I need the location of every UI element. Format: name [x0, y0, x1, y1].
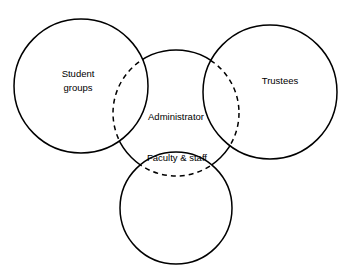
venn-diagram-canvas: Student groups Trustees Faculty & staff … — [0, 0, 352, 278]
label-student-groups-line2: groups — [63, 82, 92, 93]
label-student-groups-line1: Student — [62, 68, 95, 79]
label-trustees: Trustees — [262, 75, 299, 86]
label-administrator: Administrator — [148, 111, 204, 122]
circle-faculty-staff — [120, 152, 232, 264]
circle-trustees — [203, 25, 337, 159]
venn-svg: Student groups Trustees Faculty & staff … — [0, 0, 352, 278]
label-faculty-staff: Faculty & staff — [147, 152, 207, 163]
